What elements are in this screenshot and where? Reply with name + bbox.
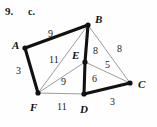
- vertex-label-F: F: [30, 102, 37, 113]
- edge-E-C-weight: 5: [105, 60, 110, 70]
- edge-B-E: [85, 25, 88, 62]
- edge-A-B: [25, 25, 88, 48]
- edge-A-B-weight: 9: [48, 29, 53, 39]
- edge-D-C: [84, 83, 130, 94]
- graph-drawing: [0, 0, 157, 127]
- vertex-dot-C: [127, 80, 132, 85]
- edge-B-F-weight: 11: [49, 55, 59, 65]
- edge-B-C-weight: 8: [117, 44, 122, 54]
- edge-A-F-weight: 3: [16, 66, 21, 76]
- vertex-dot-D: [81, 91, 86, 96]
- edge-F-D-weight: 11: [57, 102, 67, 112]
- vertex-dot-E: [82, 59, 87, 64]
- vertex-dot-A: [22, 45, 27, 50]
- edge-B-E-weight: 8: [93, 46, 98, 56]
- edge-D-C-weight: 3: [110, 97, 115, 107]
- geometry-figure-panel: 9. c. ABCDEF 938638511911: [0, 0, 157, 127]
- vertex-label-B: B: [95, 14, 102, 25]
- edge-A-F: [25, 48, 38, 93]
- edge-F-D: [38, 93, 84, 94]
- vertex-label-C: C: [138, 79, 145, 90]
- edge-F-E-weight: 9: [61, 77, 66, 87]
- vertex-label-E: E: [72, 50, 79, 61]
- edge-E-D: [84, 62, 85, 94]
- vertex-label-D: D: [80, 104, 88, 115]
- vertex-label-A: A: [12, 40, 19, 51]
- edge-E-D-weight: 6: [92, 74, 97, 84]
- vertex-dot-B: [85, 22, 90, 27]
- vertex-dot-F: [35, 90, 40, 95]
